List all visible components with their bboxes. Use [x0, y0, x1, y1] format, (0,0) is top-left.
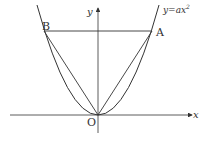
y-axis-label: y — [86, 6, 93, 17]
x-axis-label: x — [193, 109, 199, 120]
point-label-a: A — [155, 26, 165, 39]
curve-label-exp: 2 — [185, 3, 190, 10]
curve-label-prefix: y= — [162, 5, 176, 15]
origin-label: O — [87, 116, 96, 129]
segment-oa — [98, 31, 152, 115]
parabola-diagram: B A O y x y=ax2 — [0, 0, 205, 143]
segment-ob — [44, 31, 98, 115]
curve-label: y=ax2 — [162, 3, 190, 15]
curve-label-var: ax — [176, 5, 186, 15]
point-label-b: B — [42, 20, 50, 33]
